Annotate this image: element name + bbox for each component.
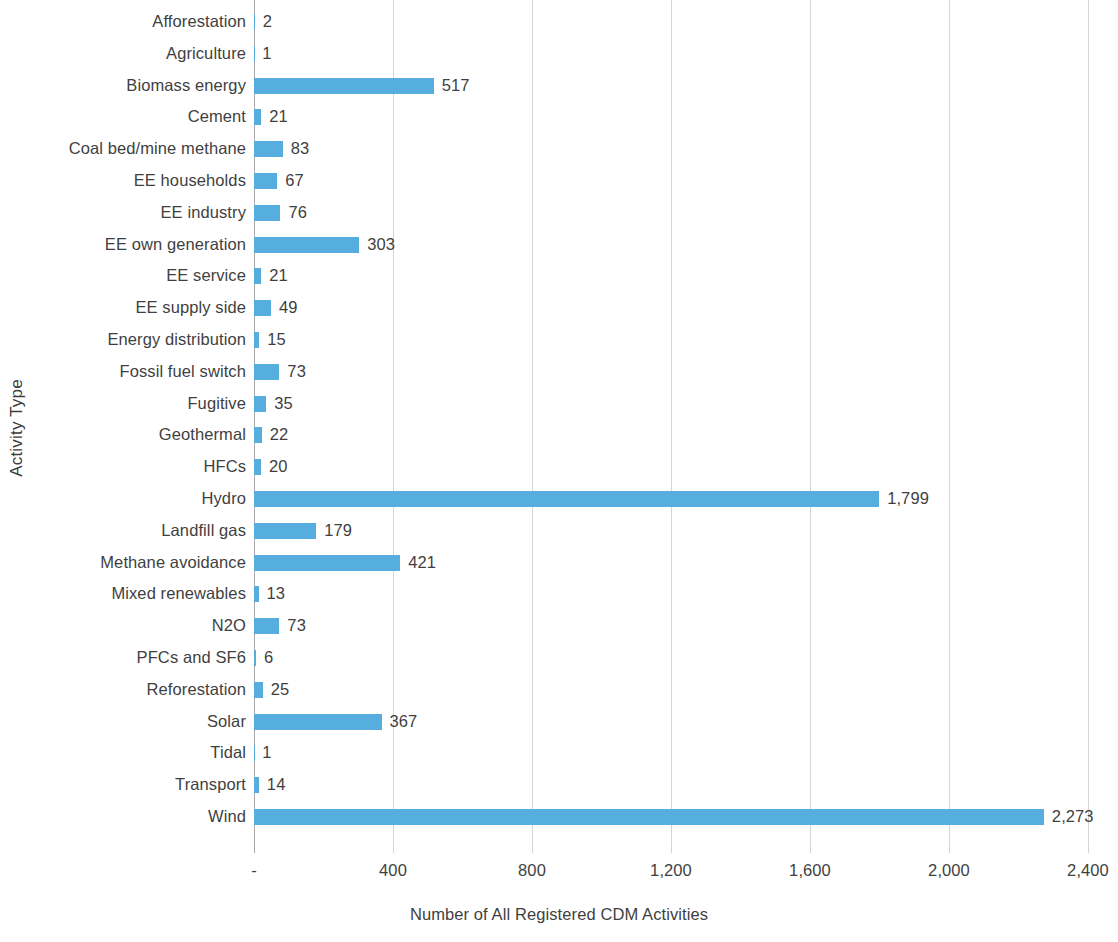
bar-row: Tidal1 bbox=[0, 737, 1118, 769]
bar-value-label: 1,799 bbox=[887, 483, 929, 515]
category-label: Cement bbox=[0, 101, 246, 133]
bar-value-label: 517 bbox=[442, 70, 470, 102]
bar[interactable] bbox=[254, 396, 266, 412]
x-axis-tick-label: 2,400 bbox=[1067, 861, 1109, 880]
x-axis-tick-label: 400 bbox=[379, 861, 407, 880]
bar[interactable] bbox=[254, 364, 279, 380]
bar-row: Mixed renewables13 bbox=[0, 578, 1118, 610]
bar-value-label: 421 bbox=[408, 547, 436, 579]
bar-row: Biomass energy517 bbox=[0, 70, 1118, 102]
bar[interactable] bbox=[254, 618, 279, 634]
bar-row: Cement21 bbox=[0, 101, 1118, 133]
bar[interactable] bbox=[254, 109, 261, 125]
category-label: Biomass energy bbox=[0, 70, 246, 102]
bar[interactable] bbox=[254, 205, 280, 221]
bar[interactable] bbox=[254, 586, 259, 602]
bar-value-label: 179 bbox=[324, 515, 352, 547]
bar-row: Solar367 bbox=[0, 706, 1118, 738]
bar-row: EE service21 bbox=[0, 260, 1118, 292]
bar[interactable] bbox=[254, 491, 879, 507]
bar[interactable] bbox=[254, 300, 271, 316]
bar[interactable] bbox=[254, 332, 259, 348]
category-label: Wind bbox=[0, 801, 246, 833]
bar-chart: Activity Type Afforestation2Agriculture1… bbox=[0, 0, 1118, 942]
bar-value-label: 15 bbox=[267, 324, 286, 356]
bar-value-label: 20 bbox=[269, 451, 288, 483]
bar-value-label: 21 bbox=[269, 260, 288, 292]
category-label: Afforestation bbox=[0, 6, 246, 38]
bar[interactable] bbox=[254, 650, 256, 666]
category-label: EE service bbox=[0, 260, 246, 292]
x-axis: -4008001,2001,6002,0002,400 bbox=[0, 853, 1118, 903]
x-axis-tick-label: 1,600 bbox=[789, 861, 831, 880]
bar[interactable] bbox=[254, 714, 382, 730]
bar-value-label: 1 bbox=[262, 38, 271, 70]
bar-row: PFCs and SF66 bbox=[0, 642, 1118, 674]
bar[interactable] bbox=[254, 173, 277, 189]
x-axis-tick-label: 2,000 bbox=[928, 861, 970, 880]
bar-row: Fugitive35 bbox=[0, 388, 1118, 420]
x-axis-tick-label: - bbox=[251, 861, 257, 880]
bar[interactable] bbox=[254, 268, 261, 284]
bar-row: Fossil fuel switch73 bbox=[0, 356, 1118, 388]
bar-row: Wind2,273 bbox=[0, 801, 1118, 833]
bar-row: EE households67 bbox=[0, 165, 1118, 197]
bar-value-label: 25 bbox=[271, 674, 290, 706]
bar-row: Methane avoidance421 bbox=[0, 547, 1118, 579]
bar[interactable] bbox=[254, 523, 316, 539]
category-label: Transport bbox=[0, 769, 246, 801]
bar-value-label: 73 bbox=[287, 356, 306, 388]
bar[interactable] bbox=[254, 777, 259, 793]
bar-row: Coal bed/mine methane83 bbox=[0, 133, 1118, 165]
bar[interactable] bbox=[254, 555, 400, 571]
bar-row: Agriculture1 bbox=[0, 38, 1118, 70]
bar-row: Afforestation2 bbox=[0, 6, 1118, 38]
category-label: Methane avoidance bbox=[0, 547, 246, 579]
category-label: Geothermal bbox=[0, 419, 246, 451]
x-axis-tick-label: 1,200 bbox=[650, 861, 692, 880]
bar-value-label: 2,273 bbox=[1052, 801, 1094, 833]
bar[interactable] bbox=[254, 141, 283, 157]
bar-value-label: 21 bbox=[269, 101, 288, 133]
bar[interactable] bbox=[254, 459, 261, 475]
bar-value-label: 367 bbox=[390, 706, 418, 738]
category-label: Solar bbox=[0, 706, 246, 738]
bar-value-label: 6 bbox=[264, 642, 273, 674]
bar-value-label: 73 bbox=[287, 610, 306, 642]
bar[interactable] bbox=[254, 78, 434, 94]
category-label: Tidal bbox=[0, 737, 246, 769]
bar-value-label: 14 bbox=[267, 769, 286, 801]
bar-value-label: 35 bbox=[274, 388, 293, 420]
bar-row: EE supply side49 bbox=[0, 292, 1118, 324]
category-label: Agriculture bbox=[0, 38, 246, 70]
bar-value-label: 13 bbox=[267, 578, 286, 610]
bar[interactable] bbox=[254, 809, 1044, 825]
category-label: Hydro bbox=[0, 483, 246, 515]
bar[interactable] bbox=[254, 14, 255, 30]
category-label: EE own generation bbox=[0, 229, 246, 261]
bar-row: Energy distribution15 bbox=[0, 324, 1118, 356]
bar-value-label: 76 bbox=[288, 197, 307, 229]
x-axis-tick-label: 800 bbox=[518, 861, 546, 880]
bar-value-label: 67 bbox=[285, 165, 304, 197]
category-label: EE industry bbox=[0, 197, 246, 229]
bar-row: N2O73 bbox=[0, 610, 1118, 642]
bar-value-label: 83 bbox=[291, 133, 310, 165]
bar[interactable] bbox=[254, 682, 263, 698]
category-label: Fugitive bbox=[0, 388, 246, 420]
category-label: HFCs bbox=[0, 451, 246, 483]
bar[interactable] bbox=[254, 427, 262, 443]
category-label: PFCs and SF6 bbox=[0, 642, 246, 674]
bar[interactable] bbox=[254, 237, 359, 253]
bar-value-label: 2 bbox=[263, 6, 272, 38]
category-label: Reforestation bbox=[0, 674, 246, 706]
bar-row: Landfill gas179 bbox=[0, 515, 1118, 547]
bar-value-label: 1 bbox=[262, 737, 271, 769]
category-label: Coal bed/mine methane bbox=[0, 133, 246, 165]
bar-row: Hydro1,799 bbox=[0, 483, 1118, 515]
category-label: EE supply side bbox=[0, 292, 246, 324]
bar-row: Transport14 bbox=[0, 769, 1118, 801]
bar-row: EE own generation303 bbox=[0, 229, 1118, 261]
category-label: N2O bbox=[0, 610, 246, 642]
bar-row: Reforestation25 bbox=[0, 674, 1118, 706]
